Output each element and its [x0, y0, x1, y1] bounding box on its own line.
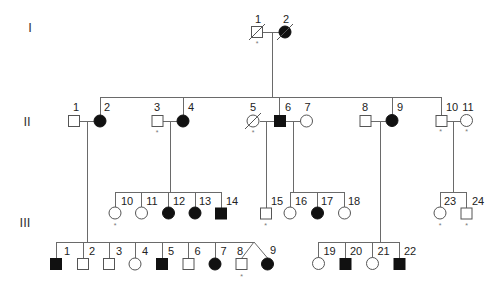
male-symbol — [436, 116, 447, 127]
female-symbol — [284, 207, 296, 219]
female-symbol-affected — [189, 207, 201, 219]
individual-III-19: 19 — [313, 245, 336, 270]
individual-III-6: 6 — [183, 245, 201, 270]
generation-label-II: II — [23, 114, 30, 129]
individual-number: 13 — [199, 195, 211, 207]
individual-III-11: 11 — [136, 195, 158, 219]
individual-number: 7 — [220, 245, 226, 257]
individual-number: 9 — [397, 101, 403, 113]
individual-number: 19 — [323, 245, 335, 257]
individual-III-2: 2 — [78, 245, 96, 270]
individual-number: 1 — [255, 13, 261, 25]
female-symbol-affected — [94, 115, 106, 127]
male-symbol-affected — [340, 259, 351, 270]
individual-number: 23 — [444, 195, 456, 207]
female-symbol-affected — [209, 258, 221, 270]
individual-number: 1 — [64, 245, 70, 257]
examined-marker: * — [264, 222, 267, 229]
examined-marker: * — [465, 128, 468, 135]
individual-number: 6 — [194, 245, 200, 257]
individual-III-10: 10 * — [109, 195, 133, 229]
individual-III-24: 24 * — [461, 195, 484, 229]
individual-II-10: 10 * — [436, 101, 458, 135]
individual-number: 9 — [270, 244, 276, 256]
female-symbol-affected — [312, 207, 324, 219]
individual-III-1: 1 — [51, 245, 71, 270]
individual-III-7: 7 — [209, 245, 227, 270]
pedigree-chart: I II III — [0, 0, 501, 287]
individual-II-3: 3 * — [152, 101, 163, 136]
male-symbol — [236, 259, 247, 270]
individual-II-7: 7 — [301, 101, 313, 127]
individual-number: 4 — [188, 101, 194, 113]
individual-number: 20 — [350, 245, 362, 257]
individual-number: 24 — [472, 195, 484, 207]
connector-lines — [56, 32, 467, 259]
male-symbol — [183, 259, 194, 270]
examined-marker: * — [465, 222, 468, 229]
individual-number: 2 — [89, 245, 95, 257]
examined-marker: * — [252, 129, 255, 136]
individual-number: 5 — [250, 101, 256, 113]
individual-II-4: 4 — [177, 101, 194, 127]
individual-number: 7 — [304, 101, 310, 113]
female-symbol — [367, 258, 379, 270]
individual-number: 18 — [348, 195, 360, 207]
individual-number: 4 — [142, 245, 148, 257]
individual-number: 3 — [116, 245, 122, 257]
individual-II-2: 2 — [94, 101, 110, 127]
male-symbol — [152, 116, 163, 127]
twin-line-III9 — [254, 242, 268, 258]
individual-III-12: 12 — [163, 195, 186, 219]
individual-III-16: 16 — [284, 195, 307, 219]
individual-II-11: 11 * — [461, 101, 474, 135]
examined-marker: * — [240, 273, 243, 280]
individual-III-18: 18 — [339, 195, 361, 219]
individual-III-5: 5 — [157, 245, 175, 270]
individual-number: 17 — [321, 195, 333, 207]
individual-II-8: 8 — [360, 101, 371, 127]
female-symbol-affected — [386, 115, 398, 127]
individual-I-2: 2 — [277, 13, 293, 40]
female-symbol-affected — [262, 258, 274, 270]
individual-III-21: 21 — [367, 245, 390, 270]
individual-number: 21 — [377, 245, 389, 257]
individual-III-4: 4 — [129, 245, 148, 270]
generation-label-I: I — [28, 20, 32, 35]
individual-number: 16 — [295, 195, 307, 207]
individual-III-20: 20 — [340, 245, 362, 270]
male-symbol — [461, 208, 472, 219]
individual-III-13: 13 — [189, 195, 211, 219]
individual-III-14: 14 — [216, 195, 239, 219]
individual-II-1: 1 — [69, 101, 80, 127]
male-symbol — [360, 116, 371, 127]
female-symbol-affected — [163, 207, 175, 219]
individual-III-8: 8 * — [236, 245, 247, 280]
individual-number: 14 — [226, 195, 238, 207]
female-symbol — [109, 207, 121, 219]
individual-number: 11 — [146, 195, 157, 207]
individual-number: 8 — [362, 101, 368, 113]
individual-number: 10 — [121, 195, 133, 207]
female-symbol — [136, 207, 148, 219]
individual-III-9: 9 — [262, 244, 277, 270]
male-symbol — [104, 259, 115, 270]
individual-number: 8 — [237, 245, 243, 257]
individual-II-5: 5 * — [245, 101, 261, 136]
female-symbol — [129, 258, 141, 270]
individual-number: 15 — [271, 195, 283, 207]
male-symbol — [78, 259, 89, 270]
male-symbol-affected — [51, 259, 62, 270]
examined-marker: * — [256, 40, 259, 47]
individual-III-15: 15 * — [261, 195, 284, 229]
individual-number: 2 — [104, 101, 110, 113]
male-symbol-affected — [275, 116, 286, 127]
examined-marker: * — [156, 129, 159, 136]
individual-I-1: 1 * — [249, 13, 265, 47]
female-symbol — [339, 207, 351, 219]
examined-marker: * — [439, 222, 442, 229]
male-symbol — [69, 116, 80, 127]
female-symbol — [461, 115, 473, 127]
individual-number: 6 — [285, 101, 291, 113]
examined-marker: * — [439, 128, 442, 135]
